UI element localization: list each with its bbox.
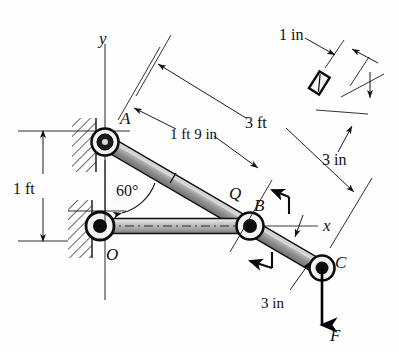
label-angle-60: 60°	[116, 182, 138, 199]
pin-joint-a	[92, 129, 119, 156]
dim-link-3in-label: 3 in	[261, 295, 284, 311]
dim-1ft-label: 1 ft	[13, 180, 35, 197]
label-point-a: A	[119, 109, 131, 128]
dim-3ft-label: 3 ft	[245, 114, 267, 131]
label-point-c: C	[335, 253, 347, 272]
link-ob	[100, 219, 252, 234]
canvas-background	[0, 0, 399, 352]
label-point-b: B	[254, 196, 265, 215]
force-f-label: F	[329, 326, 341, 345]
label-y-axis: y	[97, 29, 107, 48]
label-point-o: O	[106, 245, 118, 264]
dim-1ft9in-label: 1 ft 9 in	[170, 126, 218, 142]
pin-joint-o	[86, 212, 114, 240]
mechanism-diagram: 1 ft 1 ft 9 in 3 ft 3 in	[0, 0, 399, 352]
label-x-axis: x	[322, 216, 331, 235]
inset-3in-label: 3 in	[322, 151, 346, 168]
pin-a-center	[102, 139, 108, 145]
pin-joint-b	[237, 213, 264, 240]
inset-1in-label: 1 in	[279, 26, 303, 43]
figure-root: 1 ft 1 ft 9 in 3 ft 3 in	[0, 0, 399, 352]
label-point-q: Q	[229, 184, 241, 203]
